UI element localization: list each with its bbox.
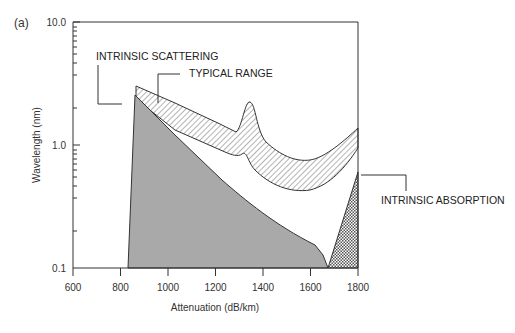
annotation-intrinsic-scattering: INTRINSIC SCATTERING — [96, 50, 218, 62]
chart-figure: (a) — [0, 0, 515, 333]
x-axis-label: Attenuation (dB/km) — [171, 302, 259, 313]
leader-intrinsic-absorption — [361, 175, 406, 191]
y-tick-label: 0.1 — [52, 263, 66, 274]
annotation-intrinsic-absorption: INTRINSIC ABSORPTION — [381, 194, 505, 206]
x-axis-ticks — [73, 268, 358, 276]
y-tick-label: 10.0 — [47, 17, 67, 28]
y-axis-ticks — [73, 22, 80, 231]
x-tick-label: 800 — [112, 282, 129, 293]
annotation-typical-range: TYPICAL RANGE — [189, 67, 273, 79]
intrinsic-absorption-region — [328, 172, 358, 268]
x-tick-label: 1400 — [252, 282, 275, 293]
x-tick-label: 1000 — [157, 282, 180, 293]
leader-intrinsic-scattering — [98, 65, 122, 104]
x-tick-label: 1800 — [347, 282, 370, 293]
x-tick-label: 1200 — [204, 282, 227, 293]
panel-label: (a) — [14, 16, 29, 30]
y-axis-label: Wavelength (nm) — [31, 107, 42, 183]
y-tick-label: 1.0 — [52, 140, 66, 151]
x-tick-label: 1600 — [299, 282, 322, 293]
x-tick-label: 600 — [65, 282, 82, 293]
